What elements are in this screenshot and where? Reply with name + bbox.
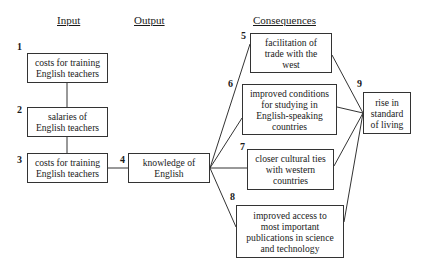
node-number-2: 2 <box>17 104 22 115</box>
node-input-salaries: salaries of English teachers <box>27 107 108 137</box>
node-label: costs for training English teachers <box>35 57 100 79</box>
node-number-7: 7 <box>240 141 245 152</box>
node-number-6: 6 <box>228 78 233 89</box>
node-label: facilitation of trade with the west <box>265 37 318 70</box>
node-label: knowledge of English <box>143 157 196 179</box>
header-input: Input <box>57 14 80 26</box>
node-number-8: 8 <box>230 191 235 202</box>
node-label: salaries of English teachers <box>36 111 99 133</box>
edge-6-9 <box>337 107 363 113</box>
node-label: costs for training English teachers <box>35 157 100 179</box>
node-consequence-publications: improved access to most important public… <box>236 205 344 258</box>
node-number-5: 5 <box>241 30 246 41</box>
node-input-training-costs: costs for training English teachers <box>27 53 108 83</box>
node-number-4: 4 <box>120 154 125 165</box>
node-number-9: 9 <box>357 78 362 89</box>
node-label: closer cultural ties with western countr… <box>255 153 325 186</box>
header-consequences: Consequences <box>253 14 316 26</box>
node-label: improved access to most important public… <box>246 210 333 254</box>
node-input-training-costs-2: costs for training English teachers <box>27 153 108 183</box>
node-output-knowledge: knowledge of English <box>128 153 210 183</box>
node-label: improved conditions for studying in Engl… <box>250 88 329 132</box>
node-consequence-standard-of-living: rise in standard of living <box>363 92 411 134</box>
edge-4-6 <box>210 118 242 168</box>
node-consequence-cultural-ties: closer cultural ties with western countr… <box>247 149 334 190</box>
header-output: Output <box>134 14 165 26</box>
node-consequence-trade: facilitation of trade with the west <box>250 33 332 73</box>
node-label: rise in standard of living <box>371 97 404 130</box>
node-consequence-studying: improved conditions for studying in Engl… <box>242 84 337 135</box>
node-number-1: 1 <box>17 41 22 52</box>
node-number-3: 3 <box>17 154 22 165</box>
